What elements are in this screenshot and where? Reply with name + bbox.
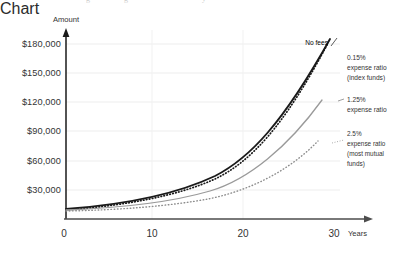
y-tick-60000: $60,000 [27,156,61,166]
y-tick-150000: $150,000 [22,68,61,78]
y-axis-title: Amount [53,15,80,24]
annotation-high-line4: funds) [347,160,365,168]
annotation-high-line1: 2.5% [347,130,362,137]
annotation-high-line2: expense ratio [347,140,386,148]
x-tick-labels: 0 10 20 30 [61,228,340,239]
gridlines [66,30,340,219]
annotation-high-expense: 2.5% expense ratio (most mutual funds) [332,130,386,168]
annotation-high-line3: (most mutual [347,150,384,158]
annotation-mid-line2: expense ratio [347,106,387,114]
x-axis [64,216,373,223]
annotation-no-fees: No fees [305,38,337,46]
series-0-15-index-funds [66,45,327,210]
x-tick-10: 10 [146,228,158,239]
y-tick-180000: $180,000 [22,39,61,49]
x-tick-30: 30 [328,228,340,239]
annotation-mid-expense: 1.25% expense ratio [338,96,387,114]
series-2-5-most-mutual-funds [66,141,318,211]
annotation-index-funds: 0.15% expense ratio (index funds) [347,54,387,82]
annotation-index-line2: expense ratio [347,64,387,72]
annotation-no-fees-label: No fees [305,39,328,46]
y-tick-30000: $30,000 [27,185,61,195]
y-tick-120000: $120,000 [22,97,61,107]
y-tick-90000: $90,000 [27,126,61,136]
y-tick-labels: $180,000 $150,000 $120,000 $90,000 $60,0… [22,39,61,195]
x-tick-0: 0 [61,228,67,239]
x-axis-title: Years [348,229,367,238]
expense-ratio-growth-chart: $180,000 $150,000 $120,000 $90,000 $60,0… [0,0,402,258]
annotation-mid-line1: 1.25% [347,96,366,103]
series-no-fees [66,39,330,209]
x-tick-20: 20 [237,228,249,239]
annotation-index-line1: 0.15% [347,54,366,61]
annotation-index-line3: (index funds) [347,74,385,82]
